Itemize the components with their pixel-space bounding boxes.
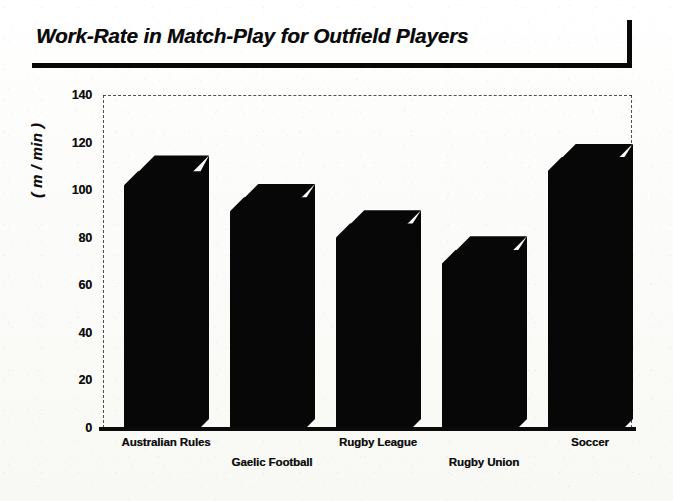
- y-tick-label-120: 120: [72, 135, 92, 149]
- title-side-rule: [627, 20, 632, 67]
- x-axis-baseline: [99, 427, 636, 431]
- plot-frame-top: [103, 95, 632, 96]
- y-tick-label-80: 80: [78, 230, 92, 244]
- y-tick-label-60: 60: [78, 278, 92, 292]
- plot-area: 020406080100120140: [103, 95, 632, 428]
- bar-front-face: [124, 171, 200, 428]
- scanned-page: Work-Rate in Match-Play for Outfield Pla…: [0, 0, 673, 501]
- y-tick-label-40: 40: [78, 326, 92, 340]
- y-axis-label: ( m / min ): [28, 123, 45, 198]
- bar-front-face: [442, 250, 518, 428]
- x-category-label-soccer: Soccer: [571, 436, 609, 448]
- bar-front-face: [336, 223, 412, 428]
- bar-side-face: [412, 223, 421, 428]
- x-category-label-rugby-union: Rugby Union: [449, 456, 519, 468]
- y-tick-label-0: 0: [85, 421, 92, 435]
- page-title: Work-Rate in Match-Play for Outfield Pla…: [36, 24, 468, 48]
- title-block: Work-Rate in Match-Play for Outfield Pla…: [22, 24, 642, 76]
- bar-top-face: [336, 210, 421, 224]
- x-category-label-gaelic-football: Gaelic Football: [232, 456, 313, 468]
- x-category-label-rugby-league: Rugby League: [339, 436, 417, 448]
- bar-top-face: [442, 236, 527, 250]
- bar-side-face: [200, 171, 209, 428]
- bar-top-face: [230, 184, 315, 198]
- y-tick-label-20: 20: [78, 373, 92, 387]
- y-tick-label-140: 140: [72, 88, 92, 102]
- bar-side-face: [518, 250, 527, 428]
- bar-side-face: [306, 197, 315, 428]
- y-tick-label-100: 100: [72, 183, 92, 197]
- x-category-label-australian-rules: Australian Rules: [121, 436, 210, 448]
- title-underline-rule: [32, 63, 632, 68]
- bar-front-face: [230, 197, 306, 428]
- bar-front-face: [548, 157, 624, 428]
- bar-top-face: [548, 144, 633, 158]
- plot-frame-left: [103, 95, 104, 428]
- bar-top-face: [124, 155, 209, 172]
- bar-side-face: [624, 157, 633, 428]
